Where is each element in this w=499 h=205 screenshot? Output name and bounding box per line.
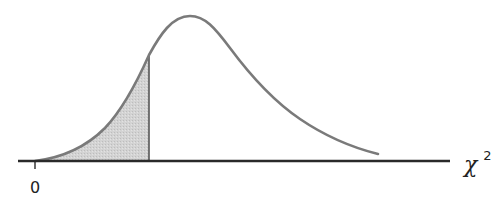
chi-square-density-curve	[35, 16, 378, 161]
x-axis-label: χ 2	[462, 148, 492, 177]
origin-label: 0	[30, 178, 40, 197]
shaded-left-tail-region	[35, 55, 149, 161]
chi-square-diagram: 0 χ 2	[0, 0, 499, 205]
x-axis-label-base: χ	[462, 152, 479, 177]
x-axis-label-superscript: 2	[483, 148, 491, 163]
